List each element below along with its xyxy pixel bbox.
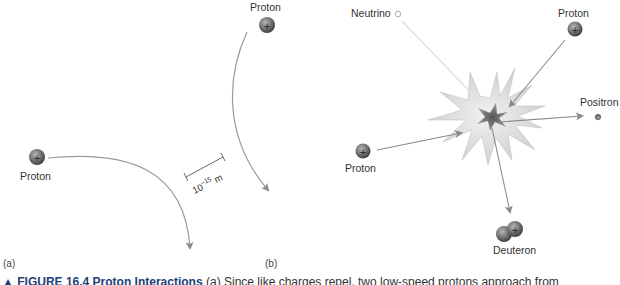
proton-top-arrow — [510, 40, 565, 106]
proton-a-left-label: Proton — [20, 170, 51, 182]
svg-text:+: + — [263, 21, 271, 31]
svg-text:+: + — [511, 225, 519, 235]
positron-particle: + — [595, 114, 601, 120]
proton-b-left-label: Proton — [345, 162, 376, 174]
trajectory-arrow-top — [232, 32, 268, 190]
proton-left-arrow — [377, 133, 461, 150]
figure-16-4: + + + — [0, 0, 620, 285]
figure-caption: ▲ FIGURE 16.4 Proton Interactions (a) Si… — [2, 275, 620, 285]
neutrino-particle — [395, 11, 401, 17]
proton-a-top-label: Proton — [250, 1, 281, 13]
caption-marker: ▲ — [2, 275, 14, 285]
proton-b-top: + — [568, 22, 583, 37]
panel-b-label: (b) — [265, 258, 277, 269]
svg-text:+: + — [571, 25, 579, 35]
deuteron-label: Deuteron — [493, 244, 536, 256]
panel-a-label: (a) — [3, 258, 15, 269]
svg-text:+: + — [33, 153, 41, 163]
svg-text:+: + — [359, 147, 367, 157]
positron-label: Positron — [580, 96, 619, 108]
svg-text:+: + — [596, 114, 600, 120]
trajectory-arrow-left — [48, 156, 190, 248]
neutrino-label: Neutrino — [351, 7, 391, 19]
caption-text: (a) Since like charges repel, two low-sp… — [206, 275, 559, 285]
proton-a-top: + — [259, 17, 275, 33]
figure-artwork: + + + — [0, 0, 620, 285]
neutrino-path — [402, 21, 478, 100]
deuteron-particle: + — [496, 221, 523, 242]
caption-figure-number: FIGURE 16.4 — [17, 275, 89, 285]
proton-b-left: + — [356, 144, 371, 159]
fusion-burst — [428, 68, 545, 165]
proton-b-top-label: Proton — [558, 7, 589, 19]
caption-title: Proton Interactions — [93, 275, 203, 285]
proton-a-left: + — [29, 149, 45, 165]
panel-a-trajectories — [48, 32, 268, 248]
